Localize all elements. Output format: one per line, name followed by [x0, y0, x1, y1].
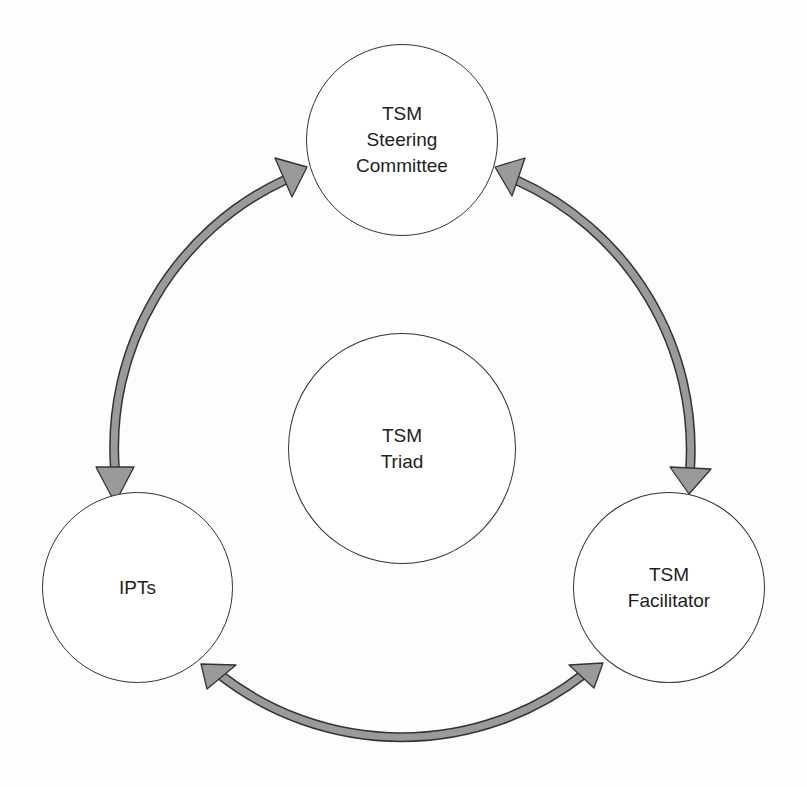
- arrow-steering-ipts: [96, 158, 307, 503]
- node-facilitator: TSM Facilitator: [573, 492, 765, 683]
- arrow-steering-facilitator: [495, 158, 711, 494]
- arrow-ipts-facilitator: [201, 663, 603, 737]
- node-label: Committee: [356, 153, 448, 179]
- node-label: Steering: [367, 127, 438, 153]
- node-label: Triad: [381, 449, 424, 475]
- node-label: TSM: [382, 101, 422, 127]
- node-steering-committee: TSM Steering Committee: [306, 44, 498, 236]
- arrowhead-down-icon: [670, 467, 711, 494]
- node-label: TSM: [382, 423, 422, 449]
- node-triad: TSM Triad: [288, 333, 516, 564]
- node-ipts: IPTs: [42, 492, 233, 683]
- node-label: Facilitator: [628, 588, 710, 614]
- node-label: IPTs: [119, 575, 156, 601]
- node-label: TSM: [649, 562, 689, 588]
- diagram-canvas: TSM Steering Committee TSM Triad IPTs TS…: [0, 0, 807, 787]
